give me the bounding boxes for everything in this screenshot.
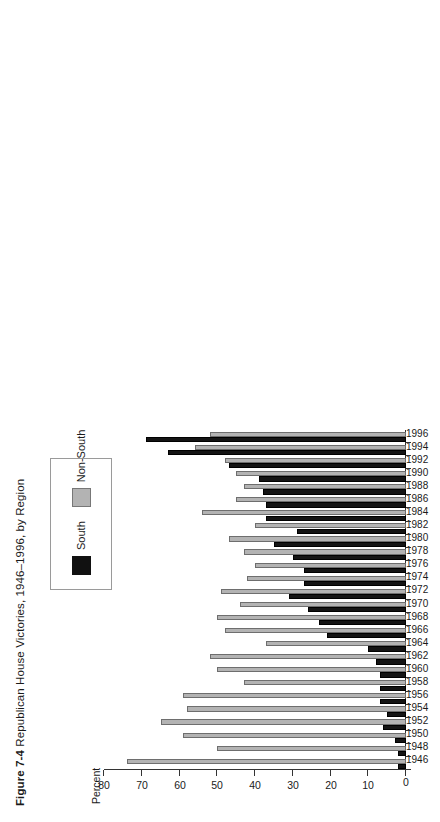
bar-non-south-1980 <box>229 536 406 541</box>
x-axis-tick <box>406 769 411 770</box>
bar-non-south-1982 <box>255 523 406 528</box>
bar-south-1966 <box>327 633 406 638</box>
y-axis-tick-label: 30 <box>287 779 299 791</box>
y-axis-tick-label: 60 <box>174 779 186 791</box>
figure-page: Figure 7-4 Republican House Victories, 1… <box>0 0 440 822</box>
bar-non-south-1950 <box>183 733 406 738</box>
bar-south-1984 <box>266 516 406 521</box>
y-axis-tick-label: 20 <box>325 779 337 791</box>
bar-non-south-1974 <box>247 576 406 581</box>
bar-south-1976 <box>304 568 406 573</box>
bar-south-1996 <box>146 437 406 442</box>
bar-non-south-1972 <box>221 589 406 594</box>
x-axis-tick <box>406 664 411 665</box>
bar-non-south-1990 <box>236 471 406 476</box>
y-axis-tick <box>216 770 217 776</box>
bar-south-1988 <box>263 489 406 494</box>
bar-south-1980 <box>274 542 406 547</box>
x-axis-tick-label: 1996 <box>406 427 428 438</box>
bar-non-south-1964 <box>266 641 406 646</box>
x-axis-tick <box>406 625 411 626</box>
bar-south-1964 <box>368 646 406 651</box>
x-axis-tick <box>406 599 411 600</box>
bar-non-south-1952 <box>161 719 406 724</box>
x-axis-tick <box>406 677 411 678</box>
figure-number: Figure 7-4 <box>14 750 26 806</box>
x-axis-tick <box>406 573 411 574</box>
y-axis-tick-label: 50 <box>211 779 223 791</box>
bar-south-1972 <box>289 594 406 599</box>
y-axis-tick <box>103 770 104 776</box>
y-axis-tick <box>330 770 331 776</box>
bar-non-south-1954 <box>187 706 406 711</box>
y-axis-tick-label: 10 <box>362 779 374 791</box>
bar-south-1954 <box>387 712 406 717</box>
bar-non-south-1962 <box>210 654 406 659</box>
bar-non-south-1956 <box>183 693 406 698</box>
x-axis-tick <box>406 521 411 522</box>
page-title: Figure 7-4 Republican House Victories, 1… <box>14 479 26 806</box>
x-axis-tick <box>406 468 411 469</box>
x-axis-tick <box>406 638 411 639</box>
bar-south-1970 <box>308 607 406 612</box>
x-axis-tick <box>406 717 411 718</box>
bar-south-1948 <box>398 751 406 756</box>
bar-non-south-1984 <box>202 510 406 515</box>
y-axis-tick-label: 70 <box>136 779 148 791</box>
bar-non-south-1968 <box>217 615 406 620</box>
x-axis-tick <box>406 756 411 757</box>
x-axis-tick <box>406 534 411 535</box>
bar-south-1992 <box>229 463 406 468</box>
x-axis-tick <box>406 507 411 508</box>
bar-south-1974 <box>304 581 406 586</box>
x-axis-tick <box>406 481 411 482</box>
bar-south-1950 <box>395 738 406 743</box>
bar-south-1962 <box>376 659 406 664</box>
bar-non-south-1946 <box>127 759 406 764</box>
x-axis-tick <box>406 494 411 495</box>
bar-non-south-1986 <box>236 497 406 502</box>
bar-non-south-1988 <box>244 484 406 489</box>
y-axis-tick <box>141 770 142 776</box>
y-axis-tick-label: 80 <box>98 779 110 791</box>
bar-non-south-1966 <box>225 628 406 633</box>
x-axis-tick <box>406 691 411 692</box>
bar-south-1990 <box>259 476 406 481</box>
y-axis-tick <box>367 770 368 776</box>
x-axis-tick <box>406 586 411 587</box>
bar-non-south-1994 <box>195 445 406 450</box>
y-axis-tick-label: 40 <box>249 779 261 791</box>
x-axis-tick <box>406 743 411 744</box>
y-axis-tick <box>179 770 180 776</box>
bar-non-south-1996 <box>210 432 406 437</box>
x-axis-tick <box>406 704 411 705</box>
y-axis-tick <box>254 770 255 776</box>
y-axis-line <box>104 769 406 770</box>
x-axis-tick <box>406 547 411 548</box>
bar-south-1960 <box>380 672 406 677</box>
bar-south-1982 <box>297 529 406 534</box>
bar-non-south-1948 <box>217 746 406 751</box>
figure-title-text: Republican House Victories, 1946–1996, b… <box>14 479 26 747</box>
bar-non-south-1960 <box>217 667 406 672</box>
x-axis-tick <box>406 442 411 443</box>
chart-plot-area: Percent 80706050403020100 19461948195019… <box>34 430 406 770</box>
bar-south-1946 <box>398 764 406 769</box>
bar-south-1986 <box>266 502 406 507</box>
x-axis-tick <box>406 651 411 652</box>
bar-non-south-1978 <box>244 549 406 554</box>
bar-south-1958 <box>380 686 406 691</box>
x-axis-tick <box>406 455 411 456</box>
bar-non-south-1992 <box>225 458 406 463</box>
bar-non-south-1976 <box>255 563 406 568</box>
bar-south-1978 <box>293 555 406 560</box>
y-axis-tick-label: 0 <box>403 776 409 788</box>
x-axis-tick <box>406 612 411 613</box>
y-axis-tick <box>292 770 293 776</box>
bar-non-south-1958 <box>244 680 406 685</box>
bar-south-1956 <box>380 699 406 704</box>
bar-south-1952 <box>383 725 406 730</box>
bar-south-1994 <box>168 450 406 455</box>
x-axis-tick <box>406 730 411 731</box>
x-axis-tick <box>406 560 411 561</box>
